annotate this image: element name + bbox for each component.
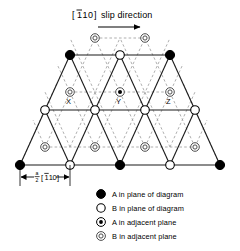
node-double-circle-z	[166, 88, 175, 97]
legend-item-b-in-plane: B in plane of diagram	[97, 204, 184, 213]
legend-item-b-adjacent: B in adjacent plane	[97, 232, 177, 241]
node-open-circle	[191, 106, 200, 115]
legend-label-b-in-plane: B in plane of diagram	[112, 204, 184, 213]
node-filled-circle	[115, 160, 124, 169]
legend-item-a-adjacent: A in adjacent plane	[97, 218, 177, 227]
node-double-circle	[141, 34, 150, 43]
node-dot-in-circle-y	[116, 88, 125, 97]
burgers-bracket-close: ]	[57, 173, 59, 182]
double-circle-icon-inner	[99, 234, 103, 238]
node-double-circle	[91, 143, 100, 152]
site-labels: X Y Z	[66, 97, 171, 106]
node-double-circle-x	[66, 88, 75, 97]
title-index-2: 1	[83, 10, 88, 20]
node-open-circle	[116, 51, 125, 60]
node-filled-circle	[215, 160, 224, 169]
node-open-circle	[91, 106, 100, 115]
node-filled-circle	[65, 50, 74, 59]
site-label-y: Y	[116, 97, 121, 106]
site-label-x: X	[66, 97, 71, 106]
burgers-vector-annotation: a 2 [ 1 1 0 ]	[20, 165, 70, 186]
node-open-circle	[141, 106, 150, 115]
burgers-bracket-open: [	[41, 173, 44, 182]
burgers-fraction-numerator: a	[35, 170, 38, 176]
solid-lattice-lines	[20, 55, 220, 165]
slip-plane-lattice-diagram: [ 1 1 0 ] slip direction	[0, 0, 240, 251]
filled-circle-icon	[97, 190, 106, 199]
legend-label-a-in-plane: A in plane of diagram	[112, 190, 184, 199]
node-open-circle	[41, 106, 50, 115]
open-circle-icon	[97, 204, 105, 212]
legend-label-a-adjacent: A in adjacent plane	[112, 218, 176, 227]
site-label-z: Z	[166, 97, 171, 106]
title-slip-direction-label: slip direction	[101, 10, 152, 20]
legend-item-a-in-plane: A in plane of diagram	[97, 190, 184, 199]
node-double-circle	[191, 143, 200, 152]
legend-label-b-adjacent: B in adjacent plane	[112, 232, 177, 241]
title-group: [ 1 1 0 ] slip direction	[72, 10, 152, 27]
legend: A in plane of diagram B in plane of diag…	[97, 190, 184, 241]
burgers-fraction-denominator: 2	[35, 177, 38, 183]
node-double-circle	[91, 34, 100, 43]
title-index-3: 0	[88, 10, 93, 20]
title-bracket-open: [	[72, 10, 75, 20]
dot-in-circle-icon-center	[99, 220, 103, 224]
node-double-circle	[141, 143, 150, 152]
node-double-circle	[41, 143, 50, 152]
title-index-1: 1	[77, 10, 82, 20]
node-filled-circle	[165, 50, 174, 59]
title-bracket-close: ]	[94, 10, 97, 20]
node-open-circle	[166, 161, 175, 170]
